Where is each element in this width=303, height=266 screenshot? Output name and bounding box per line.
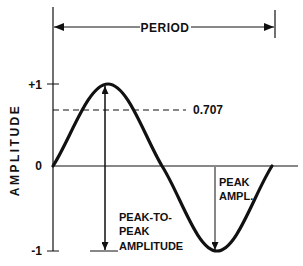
y-axis-label: AMPLITUDE <box>8 104 22 197</box>
peak-to-peak-label-line2: PEAK <box>119 225 150 237</box>
tick-label-minus-one: -1 <box>31 244 42 258</box>
period-label: PERIOD <box>140 21 189 35</box>
peak-to-peak-label-line1: PEAK-TO- <box>119 211 172 223</box>
sine-wave-diagram: PERIOD 0.707 +1 0 -1 AMPLITUDE PEAK-TO- … <box>0 0 303 266</box>
peak-amplitude-label-line1: PEAK <box>219 176 250 188</box>
sine-wave <box>53 84 272 251</box>
peak-amplitude-label-line2: AMPL. <box>219 190 253 202</box>
peak-to-peak-label-line3: AMPLITUDE <box>119 240 183 252</box>
rms-value-label: 0.707 <box>193 103 223 117</box>
tick-label-plus-one: +1 <box>28 78 42 92</box>
tick-label-zero: 0 <box>35 159 42 173</box>
